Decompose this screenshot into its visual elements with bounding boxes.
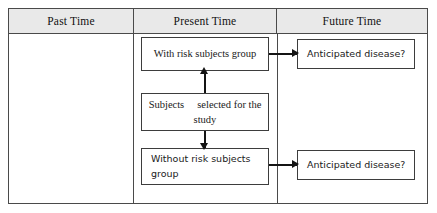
column-header-future-time: Future Time — [277, 9, 427, 33]
arrow-up-icon — [200, 67, 208, 74]
node-anticipated-disease-bottom: Anticipated disease? — [297, 150, 415, 180]
node-without-risk-line-1: Without risk subjects — [151, 153, 251, 164]
node-subjects-word-first: Subjects — [149, 99, 185, 110]
arrow-right-top-icon — [292, 49, 299, 57]
column-divider-past-present — [133, 34, 134, 203]
node-without-risk-label: Without risk subjectsgroup — [151, 152, 251, 181]
column-header-past-time: Past Time — [9, 9, 133, 33]
node-anticipated-disease-top: Anticipated disease? — [297, 39, 415, 69]
node-with-risk-subjects-group: With risk subjects group — [141, 37, 269, 71]
node-anticipated-disease-bottom-label: Anticipated disease? — [307, 158, 405, 173]
column-header-row: Past Time Present Time Future Time — [9, 9, 427, 34]
node-subjects-selected: Subjectsselected for the study — [141, 93, 269, 131]
diagram-frame: Past Time Present Time Future Time With … — [8, 8, 428, 204]
arrow-right-bottom-icon — [292, 160, 299, 168]
connector-subjects-to-with-risk — [204, 71, 206, 94]
column-header-present-time: Present Time — [133, 9, 277, 33]
node-without-risk-line-2: group — [151, 168, 179, 179]
node-with-risk-label: With risk subjects group — [154, 46, 257, 61]
node-anticipated-disease-top-label: Anticipated disease? — [307, 47, 405, 62]
node-without-risk-subjects-group: Without risk subjectsgroup — [141, 148, 269, 185]
column-divider-present-future — [277, 34, 278, 203]
arrow-down-icon — [200, 143, 208, 150]
node-subjects-label: Subjectsselected for the study — [142, 97, 268, 127]
node-subjects-word-rest: selected for the study — [194, 99, 262, 125]
